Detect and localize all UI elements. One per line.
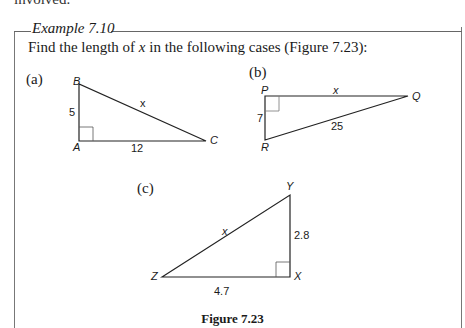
part-c-label: (c) — [137, 180, 154, 197]
vertex-p: P — [261, 84, 268, 96]
side-bc-unknown: x — [140, 97, 146, 109]
vertex-c: C — [210, 134, 218, 146]
vertex-z: Z — [151, 270, 158, 282]
side-zx-length: 4.7 — [214, 285, 229, 297]
side-pr-length: 7 — [257, 112, 263, 124]
vertex-r: R — [261, 141, 269, 153]
vertex-b: B — [73, 75, 80, 87]
side-yx-length: 2.8 — [294, 229, 309, 241]
side-ab-length: 5 — [69, 106, 75, 118]
triangle-diagrams — [0, 0, 465, 328]
triangle-a — [79, 84, 206, 141]
vertex-a: A — [73, 141, 80, 153]
vertex-x: X — [294, 270, 301, 282]
vertex-q: Q — [412, 90, 421, 102]
side-zy-unknown: x — [222, 225, 228, 237]
part-a-label: (a) — [26, 71, 43, 88]
part-b-label: (b) — [249, 64, 267, 81]
side-ac-length: 12 — [131, 142, 143, 154]
triangle-b — [265, 96, 408, 140]
side-pq-unknown: x — [333, 84, 339, 96]
side-rq-length: 25 — [331, 120, 343, 132]
vertex-y: Y — [286, 180, 293, 192]
figure-caption: Figure 7.23 — [0, 311, 465, 327]
